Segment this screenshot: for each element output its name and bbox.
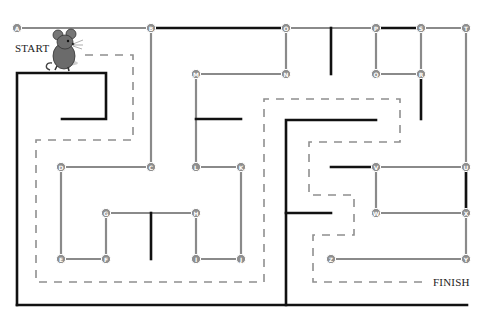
node-E: E <box>56 254 65 263</box>
node-J: J <box>236 254 245 263</box>
svg-text:H: H <box>193 210 198 217</box>
node-T: T <box>461 23 470 32</box>
node-O: O <box>281 23 290 32</box>
node-Z: Z <box>326 254 335 263</box>
dashed-route-0 <box>36 55 425 282</box>
node-A: A <box>12 23 21 32</box>
node-S: S <box>416 23 425 32</box>
graph-edges <box>17 28 466 259</box>
node-L: L <box>191 162 200 171</box>
svg-text:G: G <box>104 210 109 217</box>
node-Y: Y <box>461 254 470 263</box>
svg-text:K: K <box>239 164 244 171</box>
node-G: G <box>101 208 110 217</box>
svg-text:N: N <box>283 71 288 78</box>
svg-text:Y: Y <box>463 256 469 263</box>
node-W: W <box>371 208 380 217</box>
node-F: F <box>101 254 110 263</box>
svg-text:B: B <box>149 25 154 32</box>
node-Q: Q <box>371 69 380 78</box>
node-P: P <box>371 23 380 32</box>
solution-path <box>36 55 425 282</box>
svg-text:S: S <box>419 25 423 32</box>
svg-text:V: V <box>374 164 379 171</box>
svg-text:A: A <box>15 25 20 32</box>
maze-diagram: ABOPSTMNQRDCLKVUGHWXEFIJZY <box>0 0 483 331</box>
svg-text:M: M <box>193 71 199 78</box>
svg-text:P: P <box>374 25 379 32</box>
svg-text:L: L <box>194 164 198 171</box>
node-R: R <box>416 69 425 78</box>
svg-text:J: J <box>239 256 242 264</box>
finish-label: FINISH <box>433 276 470 288</box>
svg-text:F: F <box>104 256 108 263</box>
node-X: X <box>461 208 470 217</box>
node-I: I <box>191 254 200 263</box>
node-M: M <box>191 69 200 78</box>
svg-text:O: O <box>283 25 288 32</box>
svg-text:D: D <box>59 164 64 171</box>
svg-text:C: C <box>149 164 154 171</box>
node-N: N <box>281 69 290 78</box>
svg-text:X: X <box>464 210 469 217</box>
node-C: C <box>146 162 155 171</box>
mouse-icon <box>46 29 83 71</box>
svg-text:Q: Q <box>373 71 378 78</box>
node-B: B <box>146 23 155 32</box>
node-U: U <box>461 162 470 171</box>
svg-text:Z: Z <box>329 256 334 263</box>
svg-text:I: I <box>195 256 197 263</box>
start-label: START <box>15 42 49 54</box>
node-H: H <box>191 208 200 217</box>
svg-text:R: R <box>419 71 424 78</box>
svg-text:U: U <box>464 164 469 171</box>
node-K: K <box>236 162 245 171</box>
svg-text:E: E <box>59 256 63 263</box>
node-D: D <box>56 162 65 171</box>
node-V: V <box>371 162 380 171</box>
svg-text:W: W <box>373 210 380 217</box>
